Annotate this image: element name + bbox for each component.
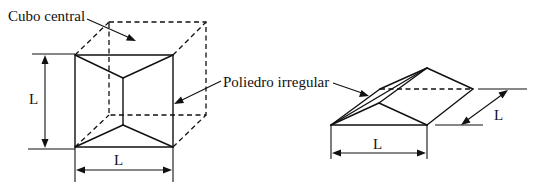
dimension-left-horizontal (75, 147, 173, 182)
inner-line-tl (75, 55, 123, 78)
label-dim-left-horizontal: L (114, 152, 123, 168)
dimension-right-diagonal (435, 89, 527, 125)
inner-line-br (123, 125, 173, 147)
dashed-edge-bl (75, 115, 109, 147)
arrowhead-icon (332, 150, 341, 157)
label-central-cube: Cubo central (8, 8, 85, 24)
arrowhead-icon (499, 90, 509, 99)
poly-edge-apex-right (427, 68, 473, 89)
dashed-edge-tr (173, 22, 206, 55)
inner-line-tr (123, 55, 173, 78)
arrowhead-icon (76, 167, 85, 174)
poly-edge-frontpeak-right (379, 103, 427, 125)
left-cube-view (28, 19, 221, 182)
arrowhead-icon (359, 90, 369, 97)
arrowhead-icon (461, 117, 471, 126)
dashed-edge-br (173, 115, 206, 147)
arrowhead-icon (42, 139, 49, 148)
inner-line-bl (75, 125, 123, 147)
arrowhead-icon (174, 97, 184, 105)
label-irregular-polyhedron: Poliedro irregular (223, 74, 329, 90)
label-dim-right-diagonal: L (494, 107, 503, 123)
poly-edge-bl-backleft (331, 89, 380, 125)
arrowhead-icon (163, 167, 172, 174)
poly-edge-frontpeak-left (331, 103, 379, 125)
polyhedron-pointer-right (333, 83, 369, 97)
arrowhead-icon (126, 34, 136, 41)
label-dim-left-vertical: L (29, 91, 38, 107)
polyhedron-pointer-left (174, 81, 221, 104)
arrowhead-icon (42, 55, 49, 64)
diagram-canvas: Cubo central Poliedro irregular L L L L (0, 0, 547, 185)
poly-edge-bl-apex (331, 68, 427, 125)
label-dim-right-horizontal: L (373, 136, 382, 152)
arrowhead-icon (417, 150, 426, 157)
